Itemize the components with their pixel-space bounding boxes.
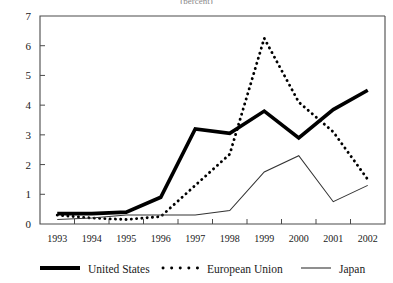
series-line-european-union (57, 38, 368, 219)
legend-label-united-states: United States (88, 263, 150, 275)
x-axis-tick-labels: 1993199419951996199719981999200020012002 (47, 233, 378, 244)
x-tick-label: 2002 (358, 233, 378, 244)
x-tick-label: 1998 (220, 233, 240, 244)
x-tick-label: 1996 (151, 233, 171, 244)
y-tick-label: 4 (26, 99, 32, 111)
legend-label-japan: Japan (339, 263, 365, 276)
x-tick-label: 2001 (323, 233, 343, 244)
x-tick-label: 2000 (289, 233, 309, 244)
data-series-group (57, 38, 368, 219)
series-line-japan (57, 156, 368, 220)
y-axis-ticks (40, 46, 45, 195)
line-chart-plot: 01234567 1993199419951996199719981999200… (0, 0, 393, 283)
plot-axes (40, 16, 385, 224)
y-tick-label: 7 (26, 10, 32, 22)
chart-container: (percent) 01234567 199319941995199619971… (0, 0, 393, 283)
y-tick-label: 0 (26, 218, 32, 230)
x-tick-label: 1999 (254, 233, 274, 244)
y-tick-label: 5 (26, 69, 32, 81)
x-tick-label: 1993 (47, 233, 67, 244)
y-tick-label: 3 (26, 129, 32, 141)
legend-label-european-union: European Union (207, 263, 283, 276)
chart-legend: United StatesEuropean UnionJapan (40, 263, 365, 276)
x-tick-label: 1997 (185, 233, 205, 244)
y-axis-tick-labels: 01234567 (26, 10, 32, 230)
y-tick-label: 2 (26, 159, 32, 171)
y-tick-label: 6 (26, 40, 32, 52)
axis-frame (40, 16, 385, 224)
y-tick-label: 1 (26, 188, 32, 200)
series-line-united-states (57, 90, 368, 213)
x-tick-label: 1994 (82, 233, 102, 244)
x-tick-label: 1995 (116, 233, 136, 244)
